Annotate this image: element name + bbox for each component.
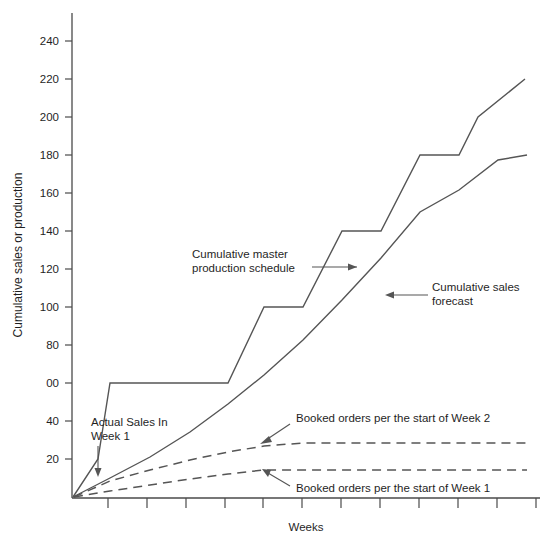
y-tick-label-180: 180	[40, 149, 59, 161]
y-tick-label-60: 00	[46, 377, 59, 389]
annotation-forecast-arrowhead-left-icon	[385, 292, 394, 299]
annotation-booked-week1-leader-line	[268, 473, 290, 486]
annotation-actual-line-1: Actual Sales In	[91, 416, 168, 428]
y-tick-label-200: 200	[40, 111, 59, 123]
annotation-forecast-line-1: Cumulative sales	[432, 281, 520, 293]
annotation-mps-line-2: production schedule	[192, 262, 295, 274]
y-tick-label-140: 140	[40, 225, 59, 237]
y-tick-label-40: 40	[46, 415, 59, 427]
y-tick-label-80: 80	[46, 339, 59, 351]
y-tick-label-20: 20	[46, 453, 59, 465]
x-tick-marks	[108, 498, 536, 508]
y-tick-labels: 240 220 200 180 160 140 120 100 80 00 40…	[40, 35, 59, 465]
chart-figure: 240 220 200 180 160 140 120 100 80 00 40…	[0, 0, 560, 557]
y-tick-label-220: 220	[40, 73, 59, 85]
chart-canvas: 240 220 200 180 160 140 120 100 80 00 40…	[0, 0, 560, 557]
annotation-cumulative-master-production-schedule: Cumulative master production schedule	[192, 248, 357, 274]
annotation-booked-week2-text: Booked orders per the start of Week 2	[296, 412, 490, 424]
annotation-forecast-line-2: forecast	[432, 295, 474, 307]
x-axis-title: Weeks	[289, 521, 324, 533]
annotation-booked-orders-week-1: Booked orders per the start of Week 1	[262, 469, 490, 494]
y-tick-label-240: 240	[40, 35, 59, 47]
annotation-booked-orders-week-2: Booked orders per the start of Week 2	[260, 412, 490, 444]
annotation-actual-line-2: Week 1	[91, 430, 130, 442]
annotation-mps-line-1: Cumulative master	[192, 248, 288, 260]
annotation-cumulative-sales-forecast: Cumulative sales forecast	[385, 281, 520, 307]
annotation-mps-arrowhead-right-icon	[348, 264, 357, 271]
y-tick-label-120: 120	[40, 263, 59, 275]
y-tick-label-100: 100	[40, 301, 59, 313]
series-cumulative-sales-forecast	[73, 155, 527, 497]
y-axis-title: Cumulative sales or production	[11, 173, 25, 338]
annotation-actual-arrowhead-down-icon	[95, 468, 102, 477]
y-tick-marks	[65, 41, 72, 459]
annotation-booked-week1-arrowhead-up-left-icon	[262, 469, 271, 477]
y-tick-label-160: 160	[40, 187, 59, 199]
annotation-booked-week1-text: Booked orders per the start of Week 1	[296, 482, 490, 494]
